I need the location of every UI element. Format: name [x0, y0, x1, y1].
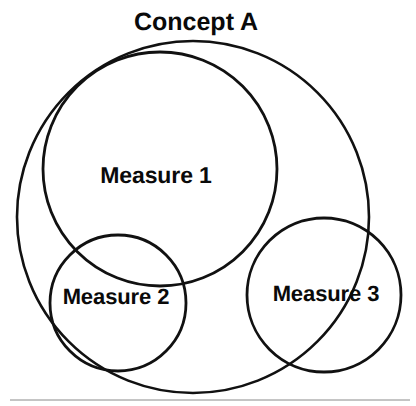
venn-diagram-canvas [0, 0, 416, 406]
label-measure-1: Measure 1 [100, 164, 212, 187]
label-measure-3: Measure 3 [273, 283, 380, 305]
venn-diagram-figure: Concept A Measure 1 Measure 2 Measure 3 [0, 0, 416, 406]
page-title: Concept A [134, 10, 258, 35]
label-measure-2: Measure 2 [63, 286, 170, 308]
